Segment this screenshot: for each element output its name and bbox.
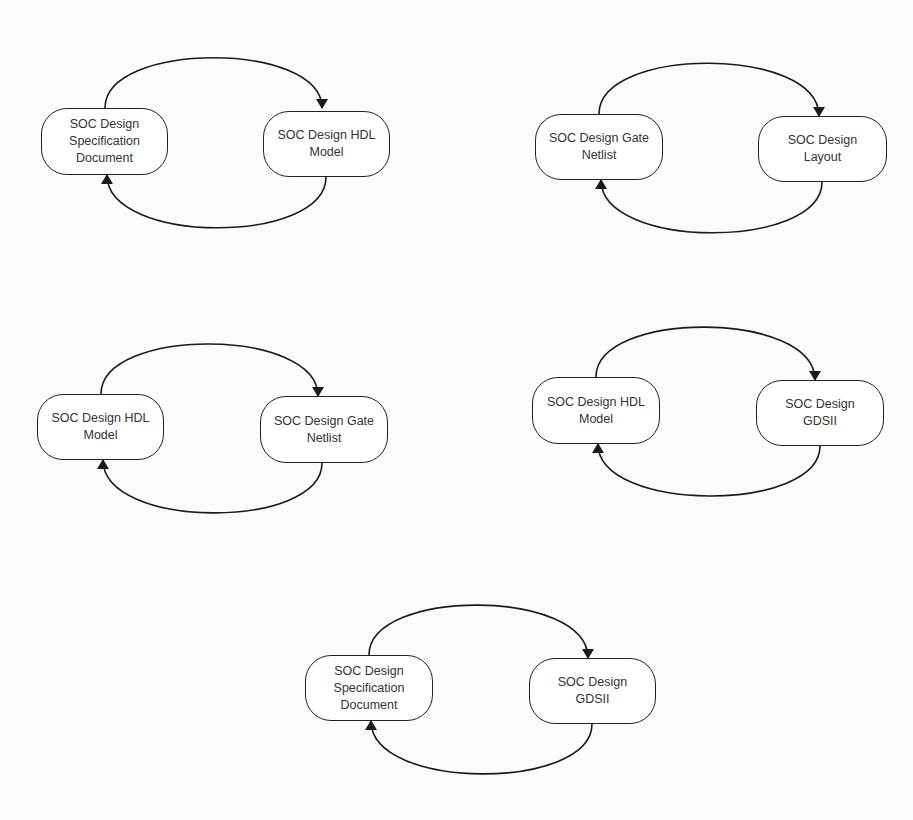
node-label: SOC Design Gate Netlist [549,130,649,164]
node-gate-netlist[interactable]: SOC Design Gate Netlist [260,396,388,463]
forward-edge [369,605,588,658]
node-spec-document[interactable]: SOC Design Specification Document [305,655,433,721]
node-label: SOC Design HDL Model [52,410,150,444]
forward-edge [105,58,322,108]
node-gate-netlist[interactable]: SOC Design Gate Netlist [535,114,663,180]
node-label: SOC Design HDL Model [278,127,376,161]
node-gdsii[interactable]: SOC Design GDSII [756,380,884,446]
node-spec-document[interactable]: SOC Design Specification Document [41,108,168,175]
node-hdl-model[interactable]: SOC Design HDL Model [37,394,164,460]
node-label: SOC Design GDSII [558,674,627,708]
node-label: SOC Design Specification Document [334,663,405,714]
diagram-canvas: SOC Design Specification Document SOC De… [0,0,913,820]
node-label: SOC Design Gate Netlist [274,413,374,447]
node-hdl-model[interactable]: SOC Design HDL Model [263,111,390,177]
forward-edge [596,327,815,380]
feedback-edge [107,175,326,228]
node-hdl-model[interactable]: SOC Design HDL Model [532,377,660,444]
node-label: SOC Design HDL Model [547,394,645,428]
forward-edge [101,344,318,396]
node-label: SOC Design Specification Document [69,116,140,167]
node-label: SOC Design Layout [788,132,857,166]
feedback-edge [598,444,820,496]
feedback-edge [601,180,822,233]
node-label: SOC Design GDSII [785,396,854,430]
feedback-edge [103,460,322,513]
forward-edge [599,63,819,116]
feedback-edge [371,721,592,774]
node-gdsii[interactable]: SOC Design GDSII [529,658,656,724]
node-layout[interactable]: SOC Design Layout [758,116,887,182]
